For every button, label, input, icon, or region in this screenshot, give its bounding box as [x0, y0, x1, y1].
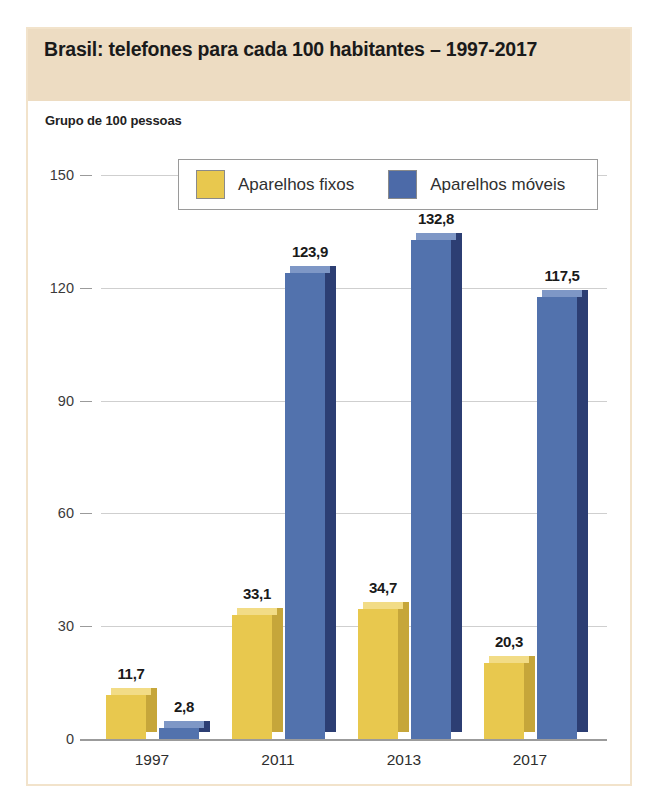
bar-value-label: 132,8	[396, 210, 476, 227]
bar-1997-moveis[interactable]	[159, 728, 199, 739]
y-axis-tick-label: 90	[28, 393, 74, 409]
bar-2011-moveis[interactable]	[285, 273, 325, 739]
bar-2011-fixos[interactable]	[232, 615, 272, 739]
y-axis-tick-label: 120	[28, 280, 74, 296]
bar-top-face	[290, 266, 330, 273]
bar-2017-fixos[interactable]	[484, 663, 524, 739]
bar-top-face	[111, 688, 151, 695]
gridline	[101, 288, 607, 289]
bar-front-face	[411, 240, 451, 739]
bar-front-face	[285, 273, 325, 739]
bar-2013-fixos[interactable]	[358, 609, 398, 739]
x-axis-tick-label-1997: 1997	[107, 751, 197, 769]
x-axis-baseline	[80, 739, 607, 741]
bar-top-face	[164, 721, 204, 728]
bar-value-label: 2,8	[144, 698, 224, 715]
bar-front-face	[232, 615, 272, 739]
bar-side-face	[272, 608, 283, 732]
bar-top-face	[489, 656, 529, 663]
bar-side-face	[398, 602, 409, 732]
legend-label-moveis: Aparelhos móveis	[430, 175, 565, 195]
x-axis-tick-label-2011: 2011	[233, 751, 323, 769]
chart-card: Brasil: telefones para cada 100 habitant…	[26, 27, 632, 786]
y-axis-tick-mark	[80, 175, 92, 176]
bar-top-face	[363, 602, 403, 609]
x-axis-tick-label-2013: 2013	[359, 751, 449, 769]
bar-side-face	[451, 233, 462, 732]
bar-value-label: 123,9	[270, 243, 350, 260]
gridline	[101, 626, 607, 627]
bar-value-label: 11,7	[91, 665, 171, 682]
y-axis-tick-label: 0	[28, 731, 74, 747]
bar-top-face	[237, 608, 277, 615]
chart-legend: Aparelhos fixos Aparelhos móveis	[178, 159, 598, 210]
bar-value-label: 117,5	[522, 267, 602, 284]
bar-2017-moveis[interactable]	[537, 297, 577, 739]
bar-front-face	[358, 609, 398, 739]
legend-swatch-icon-moveis	[388, 170, 417, 199]
bar-front-face	[484, 663, 524, 739]
y-axis-tick-label: 150	[28, 167, 74, 183]
legend-swatch-icon-fixos	[196, 170, 225, 199]
plot-area: 030609012015011,72,8199733,1123,9201134,…	[28, 29, 630, 784]
gridline	[101, 513, 607, 514]
y-axis-tick-mark	[80, 626, 92, 627]
bar-front-face	[159, 728, 199, 739]
bar-side-face	[524, 656, 535, 732]
y-axis-tick-label: 30	[28, 618, 74, 634]
legend-label-fixos: Aparelhos fixos	[238, 175, 354, 195]
bar-side-face	[325, 266, 336, 732]
legend-item-aparelhos-moveis[interactable]: Aparelhos móveis	[388, 160, 565, 209]
bar-front-face	[537, 297, 577, 739]
x-axis-tick-label-2017: 2017	[485, 751, 575, 769]
y-axis-tick-mark	[80, 401, 92, 402]
bar-top-face	[542, 290, 582, 297]
bar-2013-moveis[interactable]	[411, 240, 451, 739]
y-axis-tick-mark	[80, 513, 92, 514]
y-axis-tick-mark	[80, 288, 92, 289]
bar-front-face	[106, 695, 146, 739]
legend-item-aparelhos-fixos[interactable]: Aparelhos fixos	[196, 160, 354, 209]
bar-side-face	[577, 290, 588, 732]
gridline	[101, 401, 607, 402]
bar-1997-fixos[interactable]	[106, 695, 146, 739]
bar-top-face	[416, 233, 456, 240]
y-axis-tick-label: 60	[28, 505, 74, 521]
